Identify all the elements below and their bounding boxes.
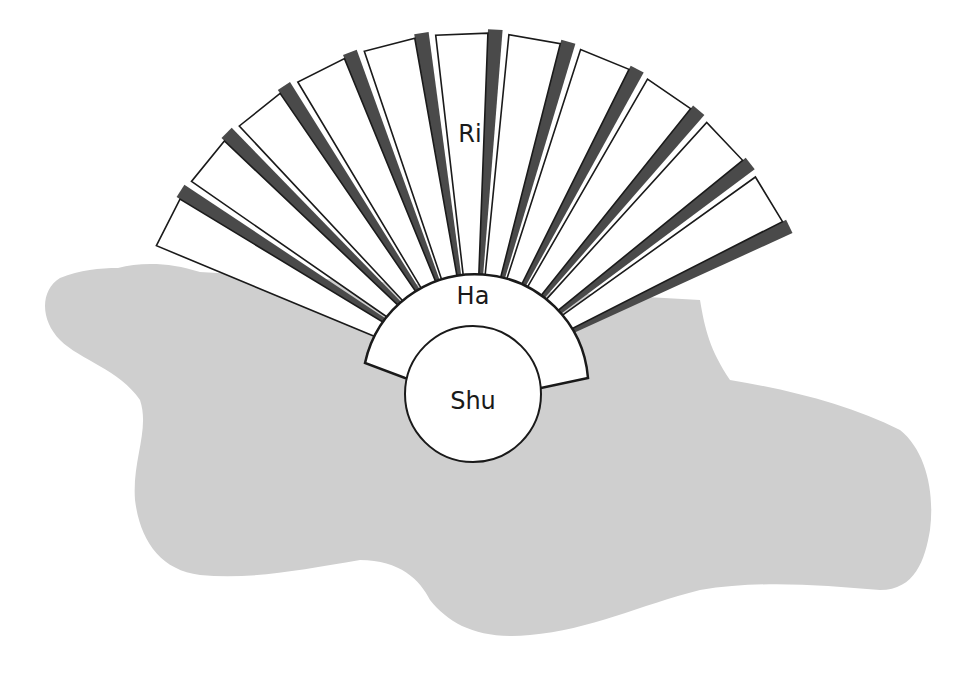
ha-label: Ha xyxy=(457,282,490,310)
shu-ha-ri-fan-diagram: Ri Ha Shu xyxy=(0,0,976,681)
shu-label: Shu xyxy=(450,387,496,415)
ri-label: Ri xyxy=(458,120,481,148)
fan-illustration: Ri Ha Shu xyxy=(0,0,976,681)
